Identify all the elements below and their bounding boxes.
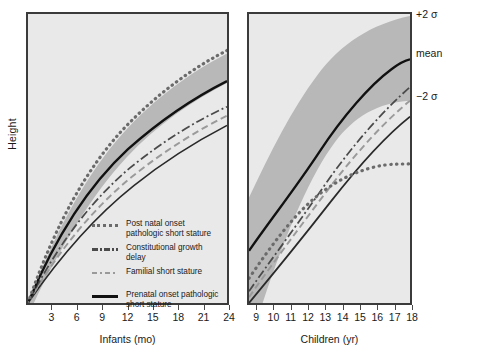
- legend-item[interactable]: Constitutional growth delay: [92, 243, 224, 262]
- children-tick-mark: [360, 305, 361, 310]
- children-x-axis-ticks: 9101112131415161718: [247, 305, 412, 327]
- legend-item[interactable]: Post natal onset pathologic short statur…: [92, 219, 224, 238]
- children-tick-mark: [291, 305, 292, 310]
- children-tick-mark: [308, 305, 309, 310]
- children-tick-label: 9: [253, 311, 259, 323]
- growth-chart-figure: Height: [0, 0, 481, 362]
- infants-tick-mark: [229, 305, 230, 310]
- children-tick-label: 17: [389, 311, 401, 323]
- legend-item-label: Post natal onset pathologic short statur…: [126, 219, 224, 238]
- children-tick-label: 16: [372, 311, 384, 323]
- infants-tick-label: 6: [74, 311, 80, 323]
- legend-item-label: Familial short stature: [126, 267, 224, 277]
- legend: Post natal onset pathologic short statur…: [92, 219, 224, 315]
- infants-tick-mark: [51, 305, 52, 310]
- children-tick-mark: [377, 305, 378, 310]
- children-tick-mark: [412, 305, 413, 310]
- children-plot-svg: [249, 14, 410, 303]
- children-plot-panel: [247, 12, 412, 305]
- children-tick-label: 13: [320, 311, 332, 323]
- children-tick-label: 12: [302, 311, 314, 323]
- children-tick-mark: [256, 305, 257, 310]
- legend-swatch-dash-dot-icon: [92, 248, 118, 251]
- legend-item[interactable]: Prenatal onset pathologic short stature: [92, 290, 224, 309]
- legend-swatch-dashed-icon: [92, 272, 118, 274]
- plus-two-sigma-annotation: +2 σ: [416, 8, 437, 20]
- legend-item-label: Prenatal onset pathologic short stature: [126, 290, 224, 309]
- children-tick-label: 11: [285, 311, 296, 323]
- legend-item-label: Constitutional growth delay: [126, 243, 224, 262]
- y-axis-label: Height: [6, 104, 18, 164]
- children-tick-mark: [343, 305, 344, 310]
- infants-axis-title: Infants (mo): [26, 333, 229, 345]
- legend-swatch-dotted-icon: [92, 224, 118, 231]
- legend-swatch-solid-icon: [92, 295, 118, 298]
- infants-tick-mark: [77, 305, 78, 310]
- children-tick-mark: [325, 305, 326, 310]
- children-tick-label: 10: [268, 311, 280, 323]
- children-tick-label: 14: [337, 311, 349, 323]
- children-axis-title: Children (yr): [247, 333, 412, 345]
- children-tick-mark: [395, 305, 396, 310]
- mean-annotation: mean: [416, 47, 442, 59]
- minus-two-sigma-annotation: −2 σ: [416, 90, 437, 102]
- children-tick-label: 15: [354, 311, 366, 323]
- children-tick-mark: [273, 305, 274, 310]
- children-reference-band: [249, 16, 410, 303]
- children-tick-label: 18: [406, 311, 418, 323]
- legend-item[interactable]: Familial short stature: [92, 267, 224, 285]
- infants-tick-label: 3: [48, 311, 54, 323]
- infants-tick-label: 24: [223, 311, 235, 323]
